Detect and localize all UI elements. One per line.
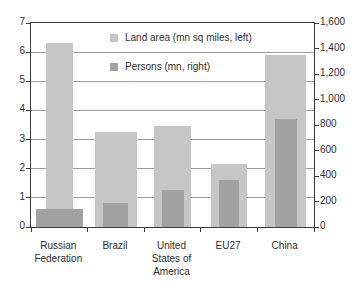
persons-bar [36, 209, 83, 227]
persons-bar [162, 190, 184, 227]
persons-bar [103, 203, 128, 227]
legend-label-persons: Persons (mn, right) [125, 61, 210, 72]
left-axis-tick-label: 1 [0, 191, 25, 203]
bottom-axis-tick [314, 228, 315, 232]
left-axis-tick-label: 5 [0, 74, 25, 86]
category-label: China [250, 239, 320, 252]
right-axis-tick [315, 176, 319, 177]
left-axis-tick [26, 168, 30, 169]
right-axis-tick [315, 23, 319, 24]
right-axis-tick [315, 201, 319, 202]
left-axis-tick-label: 3 [0, 133, 25, 145]
left-axis-tick [26, 52, 30, 53]
left-axis-tick [26, 110, 30, 111]
right-axis-tick-label: 1,000 [320, 93, 345, 105]
right-axis-tick [315, 48, 319, 49]
bottom-axis-tick [144, 228, 145, 232]
right-axis-tick-label: 600 [320, 144, 337, 156]
right-axis-tick-label: 1,400 [320, 42, 345, 54]
bottom-axis-tick [200, 228, 201, 232]
right-axis-tick [315, 150, 319, 151]
right-axis-tick [315, 74, 319, 75]
legend-item-land-area: Land area (mn sq miles, left) [110, 32, 252, 43]
left-axis-tick-label: 6 [0, 45, 25, 57]
legend-label-land-area: Land area (mn sq miles, left) [125, 32, 252, 43]
persons-bar [275, 119, 297, 227]
bottom-axis-tick [31, 228, 32, 232]
left-axis-tick-label: 0 [0, 220, 25, 232]
left-axis-tick [26, 227, 30, 228]
land-area-bar [46, 43, 73, 227]
left-axis-tick [26, 197, 30, 198]
left-axis-tick-label: 7 [0, 16, 25, 28]
bottom-axis-tick [87, 228, 88, 232]
right-axis-tick-label: 0 [320, 220, 326, 232]
right-axis-tick [315, 125, 319, 126]
left-axis-tick [26, 23, 30, 24]
left-axis-tick-label: 4 [0, 103, 25, 115]
left-axis-tick [26, 81, 30, 82]
right-axis-tick-label: 200 [320, 195, 337, 207]
legend: Land area (mn sq miles, left) Persons (m… [110, 32, 252, 72]
persons-bar [219, 180, 239, 227]
bottom-axis-tick [257, 228, 258, 232]
persons-swatch-icon [110, 63, 118, 71]
left-axis-tick-label: 2 [0, 162, 25, 174]
legend-item-persons: Persons (mn, right) [110, 61, 252, 72]
land-area-swatch-icon [110, 34, 118, 42]
right-axis-tick [315, 227, 319, 228]
chart-figure: Land area (mn sq miles, left) Persons (m… [0, 0, 361, 285]
right-axis-tick-label: 1,200 [320, 67, 345, 79]
left-axis-tick [26, 139, 30, 140]
right-axis-tick [315, 99, 319, 100]
right-axis-tick-label: 1,600 [320, 16, 345, 28]
right-axis-tick-label: 400 [320, 169, 337, 181]
right-axis-tick-label: 800 [320, 118, 337, 130]
